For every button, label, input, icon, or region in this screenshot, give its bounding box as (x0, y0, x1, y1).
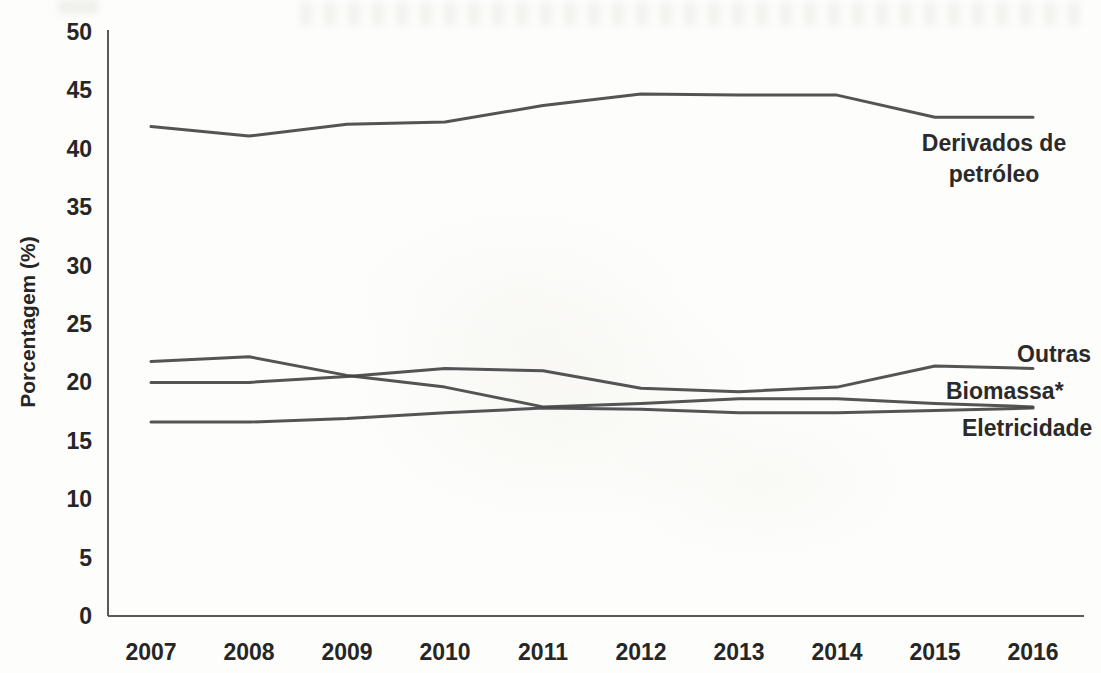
line-chart: 0510152025303540455020072008200920102011… (0, 0, 1101, 673)
x-tick-label: 2012 (615, 639, 666, 665)
x-tick-label: 2014 (811, 639, 862, 665)
y-tick-label: 25 (66, 311, 92, 337)
y-axis-title: Porcentagem (%) (15, 222, 41, 422)
y-tick-label: 10 (66, 486, 92, 512)
series-label-biomassa: Biomassa* (946, 378, 1064, 405)
y-tick-label: 30 (66, 253, 92, 279)
x-tick-label: 2009 (321, 639, 372, 665)
y-tick-label: 20 (66, 369, 92, 395)
line-eletricidade (151, 408, 1033, 422)
chart-page: 0510152025303540455020072008200920102011… (0, 0, 1101, 673)
series-label-derivados-line1: Derivados de (904, 128, 1084, 159)
y-tick-label: 0 (79, 603, 92, 629)
series-label-derivados-de-petroleo: Derivados de petróleo (904, 128, 1084, 190)
x-tick-label: 2011 (518, 639, 568, 665)
x-tick-label: 2010 (419, 639, 470, 665)
line-derivados-de-petroleo (151, 94, 1033, 136)
series-label-eletricidade: Eletricidade (962, 415, 1092, 442)
y-tick-label: 15 (66, 428, 92, 454)
x-tick-label: 2013 (713, 639, 764, 665)
y-tick-label: 40 (66, 136, 92, 162)
y-tick-label: 45 (66, 77, 92, 103)
x-tick-label: 2016 (1007, 639, 1058, 665)
x-tick-label: 2007 (125, 639, 176, 665)
y-tick-label: 35 (66, 194, 92, 220)
series-label-derivados-line2: petróleo (904, 159, 1084, 190)
line-outras (151, 366, 1033, 392)
y-tick-label: 5 (79, 545, 92, 571)
y-tick-label: 50 (66, 19, 92, 45)
x-tick-label: 2015 (909, 639, 960, 665)
x-tick-label: 2008 (223, 639, 274, 665)
series-label-outras: Outras (1017, 341, 1091, 368)
